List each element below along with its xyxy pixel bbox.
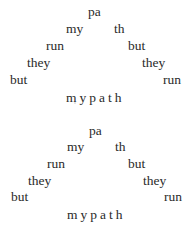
poem-footer-mypath: mypath <box>67 207 126 223</box>
word-but-left: but <box>11 189 28 205</box>
word-pa: pa <box>89 123 102 139</box>
speck <box>74 102 76 104</box>
word-run-left: run <box>46 38 64 54</box>
word-run-right: run <box>164 189 182 205</box>
word-my: my <box>67 139 84 155</box>
word-but-right: but <box>128 38 145 54</box>
word-they-left: they <box>28 173 51 189</box>
word-but-left: but <box>10 72 27 88</box>
word-but-right: but <box>128 156 145 172</box>
word-my: my <box>66 21 83 37</box>
word-pa: pa <box>88 4 101 20</box>
shape-poem-1: pa my th run but they they but run mypat… <box>0 4 195 114</box>
word-they-right: they <box>142 55 165 71</box>
word-run-right: run <box>163 72 181 88</box>
word-run-left: run <box>47 156 65 172</box>
word-they-right: they <box>143 173 166 189</box>
shape-poem-2: pa my th run but they they but run mypat… <box>0 123 195 233</box>
word-th: th <box>114 21 125 37</box>
word-they-left: they <box>27 55 50 71</box>
word-th: th <box>115 139 126 155</box>
